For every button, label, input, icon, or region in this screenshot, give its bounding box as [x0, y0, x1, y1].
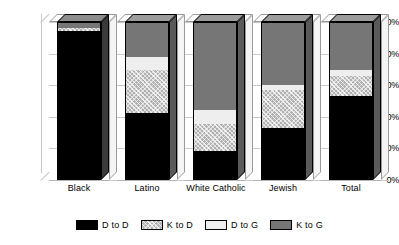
category-box-white-catholic: [185, 14, 253, 188]
segment-d-to-d-latino[interactable]: [126, 113, 168, 179]
stacked-bar-latino[interactable]: [125, 22, 169, 180]
box-floor-white-catholic: [185, 180, 245, 181]
segment-k-to-g-latino[interactable]: [126, 23, 168, 57]
segment-k-to-g-white-catholic[interactable]: [194, 23, 236, 110]
x-label-latino: Latino: [117, 183, 177, 193]
segment-d-to-d-jewish[interactable]: [262, 128, 304, 179]
legend-item-d-to-g[interactable]: D to G: [205, 220, 258, 230]
bar-side-face-jewish: [305, 14, 313, 180]
legend-label-k-to-g: K to G: [296, 220, 323, 230]
box-floor-latino: [117, 180, 177, 181]
segment-d-to-g-latino[interactable]: [126, 57, 168, 69]
segment-k-to-d-total[interactable]: [330, 76, 372, 96]
legend-swatch-k-to-g: [270, 220, 292, 230]
bar-side-face-white-catholic: [237, 14, 245, 180]
bar-side-face-black: [101, 14, 109, 180]
segment-k-to-d-latino[interactable]: [126, 70, 168, 114]
box-side-face-jewish: [313, 14, 321, 180]
category-box-black: [49, 14, 117, 188]
stacked-bar-white-catholic[interactable]: [193, 22, 237, 180]
bar-side-face-total: [373, 14, 381, 180]
box-floor-jewish: [253, 180, 313, 181]
legend-item-d-to-d[interactable]: D to D: [76, 220, 129, 230]
x-label-total: Total: [321, 183, 381, 193]
category-box-total: [321, 14, 389, 188]
segment-d-to-g-white-catholic[interactable]: [194, 110, 236, 124]
legend-swatch-d-to-g: [205, 220, 227, 230]
x-label-black: Black: [49, 183, 109, 193]
stacked-bar-black[interactable]: [57, 22, 101, 180]
box-side-face-total: [381, 14, 389, 180]
x-label-jewish: Jewish: [253, 183, 313, 193]
legend-item-k-to-d[interactable]: K to D: [141, 220, 193, 230]
box-floor-total: [321, 180, 381, 181]
segment-d-to-d-white-catholic[interactable]: [194, 151, 236, 179]
box-side-face-white-catholic: [245, 14, 253, 180]
plot-area: 100% 80% 60% 40% 20% 0%: [0, 0, 399, 205]
legend-label-d-to-d: D to D: [102, 220, 129, 230]
legend-label-d-to-g: D to G: [231, 220, 258, 230]
legend-swatch-k-to-d: [141, 220, 163, 230]
legend-label-k-to-d: K to D: [167, 220, 193, 230]
box-side-face-black: [109, 14, 117, 180]
stacked-bar-jewish[interactable]: [261, 22, 305, 180]
box-side-face-latino: [177, 14, 185, 180]
segment-d-to-d-total[interactable]: [330, 96, 372, 179]
category-box-jewish: [253, 14, 321, 188]
chart-root: 100% 80% 60% 40% 20% 0%: [0, 0, 399, 245]
stacked-bar-total[interactable]: [329, 22, 373, 180]
category-box-latino: [117, 14, 185, 188]
x-label-white-catholic: White Catholic: [178, 183, 254, 193]
bar-side-face-latino: [169, 14, 177, 180]
legend-item-k-to-g[interactable]: K to G: [270, 220, 323, 230]
segment-d-to-d-black[interactable]: [58, 31, 100, 179]
segment-k-to-d-white-catholic[interactable]: [194, 124, 236, 151]
segment-k-to-g-jewish[interactable]: [262, 23, 304, 85]
segment-k-to-d-jewish[interactable]: [262, 90, 304, 127]
axis-line-left: [41, 14, 42, 173]
chart-legend: D to D K to D D to G K to G: [0, 205, 399, 245]
box-floor-black: [49, 180, 109, 181]
segment-k-to-g-total[interactable]: [330, 23, 372, 70]
legend-swatch-d-to-d: [76, 220, 98, 230]
